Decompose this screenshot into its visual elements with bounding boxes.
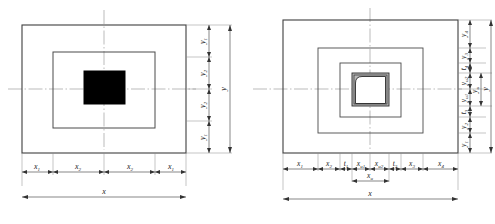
dim-y2-bottom-sub: 2 [203, 101, 208, 104]
dim-y1-bottom-sub: 1 [203, 134, 208, 137]
dim-x2-b-sub: 2 [131, 167, 134, 172]
svg-text:y1: y1 [198, 134, 208, 141]
svg-text:yu1: yu1 [459, 94, 469, 103]
dim-x1-a-sub: 1 [38, 167, 41, 172]
dimension-overall-vertical-left: y [219, 25, 232, 153]
svg-text:y1: y1 [198, 38, 208, 45]
svg-text:t3: t3 [459, 109, 469, 114]
solid-core [84, 71, 125, 104]
dim-rx1-sub: 1 [300, 164, 303, 169]
diagram-figure: x1 x2 x2 x1 x [0, 0, 495, 224]
dimension-overall-horizontal-right: x [283, 189, 458, 201]
dimension-chain-vertical-right: y4 y3 t4 yu2 yu1 t3 y2 y1 [458, 20, 492, 153]
panel-left: x1 x2 x2 x1 x [8, 10, 232, 199]
dimension-inner-group-horizontal-right: xu [352, 171, 389, 183]
dim-x1-b-sub: 1 [172, 167, 175, 172]
svg-text:y: y [481, 87, 490, 92]
svg-text:x1: x1 [167, 162, 174, 172]
dim-x-overall-label: x [101, 187, 106, 196]
dim-ryu-group-sub: u [475, 87, 480, 90]
svg-text:x3: x3 [408, 159, 415, 169]
svg-text:t4: t4 [459, 65, 469, 70]
svg-text:x: x [101, 187, 106, 196]
dim-rt4-sub: 4 [464, 65, 469, 68]
svg-text:xu1: xu1 [356, 159, 365, 169]
dim-rxu-group-sub: u [370, 176, 373, 181]
svg-text:x: x [367, 189, 372, 198]
svg-text:xu2: xu2 [374, 159, 384, 169]
dim-rt3-sub: 3 [464, 109, 469, 112]
dim-rxu2-sub: u2 [378, 164, 384, 169]
svg-text:y2: y2 [198, 69, 208, 77]
svg-text:x2: x2 [325, 159, 332, 169]
dim-rx2-sub: 2 [329, 164, 332, 169]
dim-ry2-sub: 2 [464, 123, 469, 126]
dimension-chain-horizontal-left: x1 x2 x2 x1 [22, 153, 186, 186]
svg-text:x2: x2 [74, 162, 82, 172]
dimension-chain-horizontal-right: x1 x2 t1 xu1 xu2 t2 x3 x4 [283, 153, 458, 190]
svg-text:y2: y2 [198, 101, 208, 109]
panel-right: x1 x2 t1 xu1 xu2 t2 x3 x4 [253, 8, 493, 201]
dim-rx4-sub: 4 [441, 164, 444, 169]
svg-text:xu: xu [366, 171, 373, 181]
dim-x2-a-sub: 2 [79, 167, 82, 172]
svg-text:x4: x4 [437, 159, 444, 169]
dim-ryu1-sub: u1 [464, 94, 469, 99]
dim-y-overall-label: y [219, 87, 228, 92]
dim-ryu2-sub: u2 [464, 76, 469, 82]
svg-text:t1: t1 [344, 159, 349, 169]
dim-rx3-sub: 3 [412, 164, 415, 169]
dim-y2-top-sub: 2 [203, 69, 208, 72]
svg-text:yu: yu [470, 87, 480, 94]
svg-text:y: y [219, 87, 228, 92]
hollow-tube-core [352, 73, 389, 106]
svg-text:x1: x1 [296, 159, 303, 169]
svg-text:y4: y4 [459, 31, 469, 38]
svg-text:x2: x2 [126, 162, 134, 172]
dimension-overall-horizontal-left: x [22, 187, 186, 199]
dim-rxu1-sub: u1 [360, 164, 365, 169]
dim-ry1-sub: 1 [464, 141, 469, 144]
dim-y1-top-sub: 1 [203, 38, 208, 41]
svg-text:yu2: yu2 [459, 76, 469, 86]
svg-text:y3: y3 [459, 53, 469, 60]
svg-text:x1: x1 [33, 162, 40, 172]
dim-rx-overall-label: x [367, 189, 372, 198]
dim-rt1-sub: 1 [346, 164, 349, 169]
dim-ry4-sub: 4 [464, 31, 469, 34]
svg-text:t2: t2 [393, 159, 398, 169]
dim-ry-overall-label: y [481, 87, 490, 92]
svg-text:y2: y2 [459, 123, 469, 130]
dim-ry3-sub: 3 [464, 53, 469, 56]
svg-text:y1: y1 [459, 141, 469, 148]
